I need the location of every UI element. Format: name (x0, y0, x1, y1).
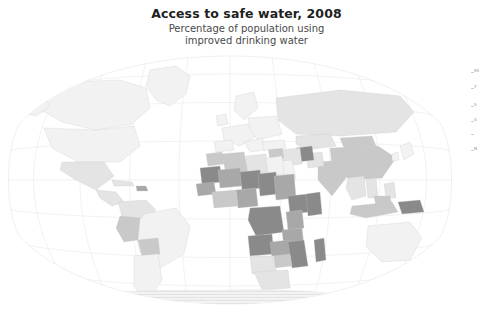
legend-tick-label: 5 (474, 102, 477, 107)
country-madagascar (314, 238, 326, 262)
country-bolivia (138, 238, 160, 256)
country-somalia (306, 192, 322, 216)
subtitle-line-1: Percentage of population using (0, 23, 493, 35)
legend-tick-label: 7 (474, 84, 477, 89)
page-subtitle: Percentage of population using improved … (0, 23, 493, 46)
country-uk-ireland (216, 114, 228, 126)
country-mali (218, 168, 242, 188)
world-map (0, 50, 460, 310)
country-russia (276, 90, 414, 136)
page-title: Access to safe water, 2008 (0, 6, 493, 21)
map-canvas (0, 50, 460, 310)
country-spain-portugal (214, 140, 234, 152)
country-west-coast (212, 190, 238, 208)
country-kenya (286, 210, 304, 230)
country-papua-new-guinea (398, 200, 424, 214)
country-antarctica (66, 290, 404, 310)
country-morocco (206, 152, 224, 166)
country-borneo (374, 196, 392, 206)
country-new-zealand (428, 252, 442, 268)
country-angola (248, 234, 274, 256)
map-figure: Access to safe water, 2008 Percentage of… (0, 0, 493, 319)
legend-tick-label: N (474, 146, 477, 151)
country-haiti (136, 186, 148, 191)
legend-tick-label: 91 (474, 68, 479, 73)
country-vietnam (366, 178, 378, 198)
title-block: Access to safe water, 2008 Percentage of… (0, 6, 493, 46)
country-nigeria (236, 188, 258, 208)
subtitle-line-2: improved drinking water (0, 35, 493, 47)
legend-tick-label: 4 (474, 117, 477, 122)
legend-tick-mark (471, 134, 474, 135)
country-philippines (384, 182, 396, 198)
legend: 91754N (474, 68, 493, 163)
